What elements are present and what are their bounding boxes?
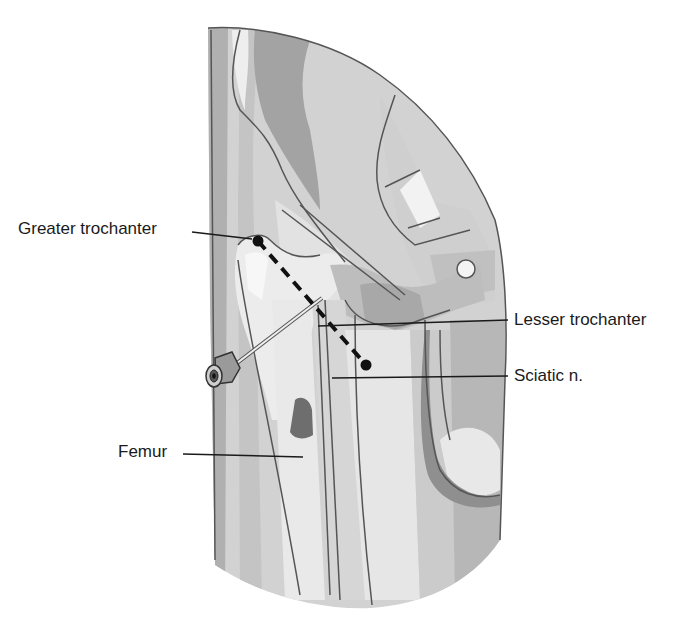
pubic-tubercle bbox=[457, 260, 475, 278]
needle-target-dot bbox=[361, 360, 372, 371]
greater-trochanter-dot bbox=[253, 236, 264, 247]
label-sciatic-nerve: Sciatic n. bbox=[514, 366, 583, 386]
label-femur: Femur bbox=[118, 442, 167, 462]
label-greater-trochanter: Greater trochanter bbox=[18, 219, 157, 239]
label-lesser-trochanter: Lesser trochanter bbox=[514, 310, 646, 330]
